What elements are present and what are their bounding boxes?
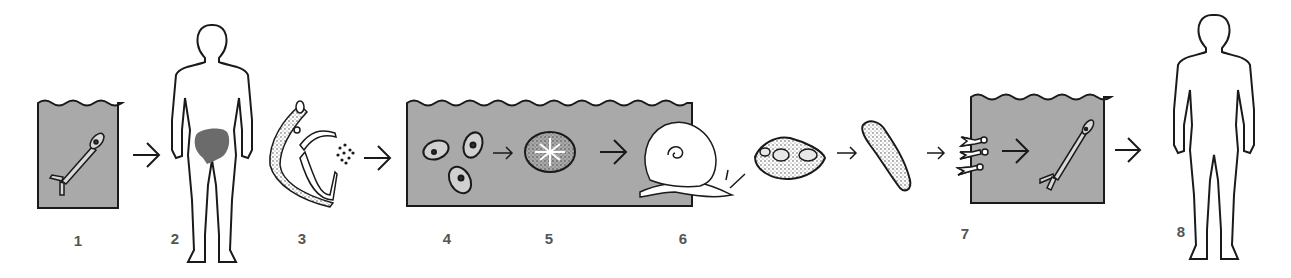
arrow-icon [1115, 138, 1140, 162]
arrow-icon [837, 147, 856, 159]
human-host-icon [1174, 15, 1254, 259]
stage-label-4: 4 [443, 230, 451, 247]
daughter-sporocyst-icon [862, 121, 910, 190]
stage-label-3: 3 [298, 230, 306, 247]
eggs-dots [336, 143, 354, 164]
adult-worms-icon [270, 101, 337, 207]
arrow-icon [133, 143, 159, 167]
stage-label-7: 7 [961, 225, 969, 242]
stage-label-1: 1 [74, 232, 82, 249]
stage-label-5: 5 [545, 230, 553, 247]
arrow-icon [927, 147, 944, 159]
stage-label-6: 6 [679, 230, 687, 247]
arrow-icon [364, 146, 390, 170]
water-box-1 [38, 101, 122, 209]
water-box-3 [971, 95, 1111, 204]
stage-label-2: 2 [171, 230, 179, 247]
mother-sporocyst-icon [755, 137, 825, 179]
stage-label-8: 8 [1177, 223, 1185, 240]
miracidium-icon [525, 132, 575, 172]
diagram-canvas [0, 0, 1291, 278]
snail-icon [640, 122, 745, 197]
life-cycle-diagram: 1 2 3 4 5 6 7 8 [0, 0, 1291, 278]
